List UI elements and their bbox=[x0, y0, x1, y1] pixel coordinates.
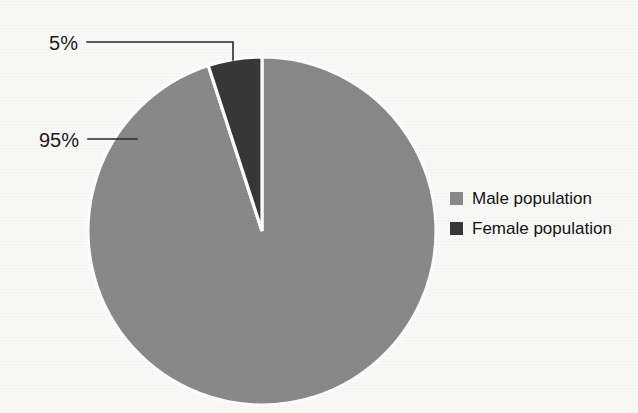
legend-item-female[interactable]: Female population bbox=[450, 219, 612, 238]
slice-label-female-percent: 5% bbox=[49, 32, 78, 54]
legend-swatch-male bbox=[450, 192, 463, 205]
legend-label-male: Male population bbox=[472, 189, 592, 208]
chart-legend: Male population Female population bbox=[450, 189, 612, 238]
pie-chart: 5% 95% Male population Female population bbox=[0, 0, 638, 413]
legend-item-male[interactable]: Male population bbox=[450, 189, 592, 208]
leader-line-female bbox=[87, 42, 233, 60]
legend-swatch-female bbox=[450, 222, 463, 235]
slice-label-male-percent: 95% bbox=[39, 129, 79, 151]
legend-label-female: Female population bbox=[472, 219, 612, 238]
pie-chart-canvas: 5% 95% Male population Female population bbox=[0, 0, 638, 413]
